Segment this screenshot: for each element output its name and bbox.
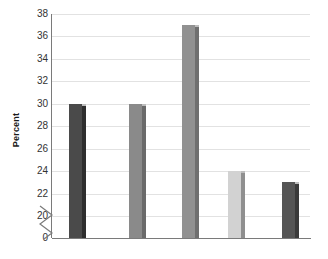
bar-top-facet: [142, 104, 146, 106]
bar: [228, 171, 245, 238]
y-axis-tick-label: 22: [26, 189, 48, 199]
y-axis-tick-label: 0: [26, 233, 48, 243]
y-axis-tick-label: 28: [26, 121, 48, 131]
bar-face: [69, 104, 82, 238]
y-axis-tick-label: 20: [26, 211, 48, 221]
gridline: [52, 59, 310, 60]
gridline: [52, 81, 310, 82]
y-axis-tick-label: 24: [26, 166, 48, 176]
bar: [182, 25, 199, 238]
gridline: [52, 104, 310, 105]
bar-side-shade: [241, 173, 245, 238]
bar-side-shade: [295, 184, 299, 238]
bar: [69, 104, 86, 238]
bar-side-shade: [142, 106, 146, 238]
bar-chart: Percent 020222426283032343638: [0, 0, 328, 259]
bar-face: [129, 104, 142, 238]
gridline: [52, 194, 310, 195]
gridline: [52, 216, 310, 217]
bar-face: [282, 182, 295, 238]
y-axis-tick-label: 26: [26, 144, 48, 154]
y-axis-tick-label: 34: [26, 54, 48, 64]
gridline: [52, 171, 310, 172]
y-axis-tick-labels: 020222426283032343638: [22, 0, 48, 259]
y-axis-title-label: Percent: [11, 112, 21, 146]
bar-face: [228, 171, 241, 238]
bar-side-shade: [82, 106, 86, 238]
plot-area: [52, 14, 310, 238]
bar: [129, 104, 146, 238]
y-axis-tick-label: 32: [26, 76, 48, 86]
bar: [282, 182, 299, 238]
gridline: [52, 36, 310, 37]
gridline: [52, 14, 310, 15]
y-axis-tick-label: 36: [26, 31, 48, 41]
bar-top-facet: [241, 171, 245, 173]
x-axis-line: [52, 238, 311, 239]
bar-side-shade: [195, 27, 199, 238]
bar-top-facet: [195, 25, 199, 27]
y-axis-tick-label: 30: [26, 99, 48, 109]
gridline: [52, 149, 310, 150]
y-axis-tick-label: 38: [26, 9, 48, 19]
bar-face: [182, 25, 195, 238]
gridline: [52, 126, 310, 127]
bar-top-facet: [295, 182, 299, 184]
bar-top-facet: [82, 104, 86, 106]
